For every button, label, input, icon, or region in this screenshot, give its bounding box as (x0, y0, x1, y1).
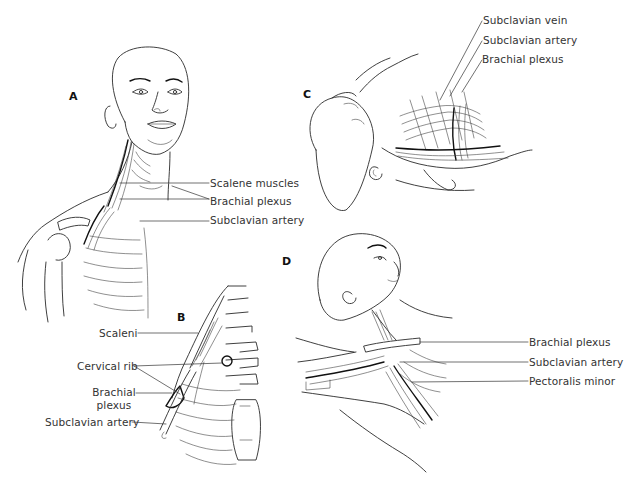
label-a-subclavian-artery: Subclavian artery (210, 215, 304, 226)
label-c-subclavian-vein: Subclavian vein (483, 15, 567, 26)
label-b-cervical-rib: Cervical rib (77, 361, 138, 372)
label-c-subclavian-artery: Subclavian artery (483, 35, 577, 46)
label-b-scaleni: Scaleni (99, 328, 138, 339)
panel-a-drawing (18, 47, 189, 322)
label-c-brachial-plexus: Brachial plexus (482, 54, 564, 65)
panel-c-drawing (310, 54, 532, 211)
label-d-brachial-plexus: Brachial plexus (529, 337, 611, 348)
label-a-scalene-muscles: Scalene muscles (210, 178, 299, 189)
panel-d-drawing (296, 234, 452, 472)
anatomy-figure: A B C D Scalene muscles Brachial plexus … (0, 0, 633, 481)
label-d-subclavian-artery: Subclavian artery (529, 357, 623, 368)
label-b-brachial-plexus: Brachial plexus (92, 387, 136, 410)
panel-b-drawing (160, 286, 261, 465)
panel-letter-a: A (69, 91, 78, 102)
panel-letter-d: D (282, 256, 291, 267)
label-b-brachial-plexus-line2: plexus (92, 400, 136, 411)
panel-letter-b: B (177, 312, 185, 323)
label-b-subclavian-artery: Subclavian artery (45, 417, 139, 428)
label-a-brachial-plexus: Brachial plexus (210, 196, 292, 207)
panel-letter-c: C (303, 89, 311, 100)
label-b-brachial-plexus-line1: Brachial (92, 387, 136, 398)
label-d-pectoralis-minor: Pectoralis minor (529, 376, 615, 387)
